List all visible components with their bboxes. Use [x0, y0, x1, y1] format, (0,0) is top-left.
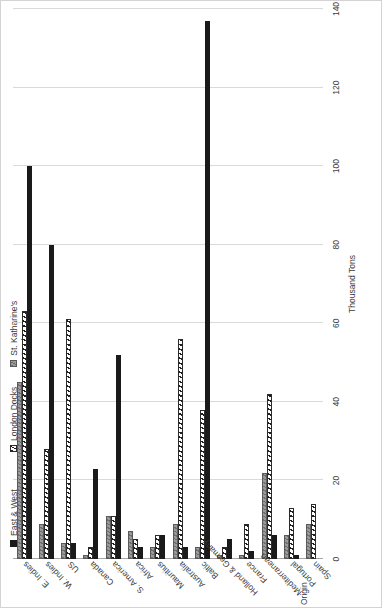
- bar-group: [13, 11, 35, 559]
- bar: [306, 524, 311, 559]
- bar-group: [58, 11, 80, 559]
- value-tick-label: 0: [331, 544, 341, 574]
- bar: [272, 535, 277, 559]
- bar: [88, 547, 93, 559]
- bar: [133, 539, 138, 559]
- bar: [44, 449, 49, 559]
- bar-group: [80, 11, 102, 559]
- bar: [106, 516, 111, 559]
- bar-group: [102, 11, 124, 559]
- value-tick-label: 60: [331, 308, 341, 338]
- bar: [27, 166, 32, 559]
- plot-inner: [13, 11, 323, 559]
- bar-group: [147, 11, 169, 559]
- bar: [284, 535, 289, 559]
- bar: [262, 473, 267, 559]
- bar: [244, 524, 249, 559]
- value-tick-label: 80: [331, 230, 341, 260]
- bar: [249, 551, 254, 559]
- value-tick-label: 40: [331, 387, 341, 417]
- value-tick-label: 20: [331, 465, 341, 495]
- gridline: [13, 8, 323, 9]
- bar: [155, 535, 160, 559]
- chart-page: East & West India DocksLondon DocksSt. K…: [0, 0, 382, 608]
- value-axis-title: Thousand Tons: [347, 9, 357, 559]
- bar: [173, 524, 178, 559]
- bar: [66, 319, 71, 559]
- bar: [200, 410, 205, 559]
- bar-group: [303, 11, 325, 559]
- bar: [39, 524, 44, 559]
- bar: [205, 21, 210, 559]
- bar: [49, 245, 54, 559]
- bar: [71, 543, 76, 559]
- bar: [111, 516, 116, 559]
- bar-group: [258, 11, 280, 559]
- bar: [178, 339, 183, 559]
- bar-group: [35, 11, 57, 559]
- bar-group: [280, 11, 302, 559]
- plot-area: [13, 11, 323, 559]
- bar: [160, 535, 165, 559]
- bar: [17, 382, 22, 559]
- bar: [138, 547, 143, 559]
- bar-group: [169, 11, 191, 559]
- bar-group: [214, 11, 236, 559]
- bar-group: [124, 11, 146, 559]
- bar: [116, 355, 121, 559]
- bar: [22, 312, 27, 560]
- bar: [93, 469, 98, 559]
- figure-wrapper: East & West India DocksLondon DocksSt. K…: [0, 0, 382, 608]
- bar-group: [236, 11, 258, 559]
- bar-group: [191, 11, 213, 559]
- bar: [267, 394, 272, 559]
- value-tick-label: 120: [331, 73, 341, 103]
- bar: [83, 555, 88, 559]
- bar: [239, 555, 244, 559]
- bar: [61, 543, 66, 559]
- bar-chart-figure: East & West India DocksLondon DocksSt. K…: [0, 0, 382, 608]
- bar: [227, 539, 232, 559]
- bar: [183, 547, 188, 559]
- bar: [128, 532, 133, 560]
- value-tick-label: 100: [331, 151, 341, 181]
- bar: [311, 504, 316, 559]
- bar: [150, 547, 155, 559]
- value-tick-label: 140: [331, 0, 341, 24]
- bar: [195, 547, 200, 559]
- bar: [289, 508, 294, 559]
